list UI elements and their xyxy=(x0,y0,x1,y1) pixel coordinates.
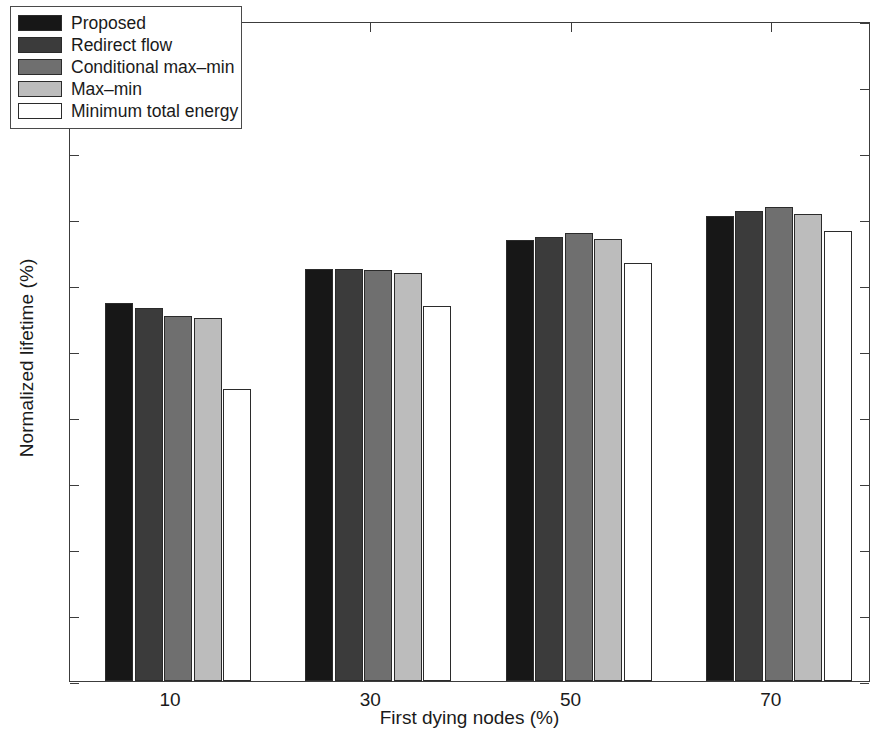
legend-label: Redirect flow xyxy=(71,36,172,55)
legend-item: Max–min xyxy=(18,78,234,100)
x-axis-label: First dying nodes (%) xyxy=(69,706,870,730)
y-axis-tick-right xyxy=(860,23,869,24)
bar xyxy=(624,263,652,681)
legend-swatch xyxy=(18,59,62,75)
bar xyxy=(223,389,251,681)
y-axis-tick-right xyxy=(860,287,869,288)
bar xyxy=(423,306,451,681)
y-axis-tick xyxy=(70,353,79,354)
bar xyxy=(706,216,734,681)
y-axis-tick xyxy=(70,155,79,156)
y-axis-tick-right xyxy=(860,89,869,90)
y-axis-tick xyxy=(70,683,79,684)
bar xyxy=(335,269,363,681)
bar xyxy=(735,211,763,681)
legend-item: Redirect flow xyxy=(18,34,234,56)
y-axis-tick xyxy=(70,287,79,288)
bar xyxy=(794,214,822,681)
y-axis-tick-right xyxy=(860,353,869,354)
legend-swatch xyxy=(18,37,62,53)
bar xyxy=(164,316,192,681)
legend-label: Minimum total energy xyxy=(71,102,238,121)
bar-chart-figure: Normalized lifetime (%) 0102030405060708… xyxy=(0,0,885,742)
x-axis-tick-top xyxy=(370,23,371,32)
x-axis-tick-top xyxy=(771,23,772,32)
bar xyxy=(194,318,222,681)
bar xyxy=(824,231,852,681)
legend-swatch xyxy=(18,81,62,97)
legend-swatch xyxy=(18,15,62,31)
y-axis-tick xyxy=(70,485,79,486)
legend-swatch xyxy=(18,103,62,119)
y-axis-tick xyxy=(70,617,79,618)
y-axis-tick xyxy=(70,419,79,420)
bar xyxy=(535,237,563,681)
legend-label: Max–min xyxy=(71,80,142,99)
y-axis-tick xyxy=(70,221,79,222)
bar xyxy=(135,308,163,681)
y-axis-tick-right xyxy=(860,485,869,486)
y-axis-tick xyxy=(70,551,79,552)
y-axis-tick-right xyxy=(860,617,869,618)
y-axis-tick-right xyxy=(860,683,869,684)
y-axis-tick-right xyxy=(860,551,869,552)
legend-label: Proposed xyxy=(71,14,146,33)
legend: ProposedRedirect flowConditional max–min… xyxy=(10,6,242,129)
bar xyxy=(305,269,333,682)
bar xyxy=(364,270,392,681)
bar xyxy=(506,240,534,681)
bar xyxy=(394,273,422,681)
y-axis-tick-right xyxy=(860,221,869,222)
legend-item: Proposed xyxy=(18,12,234,34)
bar xyxy=(765,207,793,681)
y-axis-tick-right xyxy=(860,419,869,420)
legend-label: Conditional max–min xyxy=(71,58,234,77)
bar xyxy=(105,303,133,681)
bar xyxy=(565,233,593,681)
legend-item: Conditional max–min xyxy=(18,56,234,78)
y-axis-tick-right xyxy=(860,155,869,156)
bar xyxy=(594,239,622,681)
legend-item: Minimum total energy xyxy=(18,100,234,122)
x-axis-tick-top xyxy=(571,23,572,32)
